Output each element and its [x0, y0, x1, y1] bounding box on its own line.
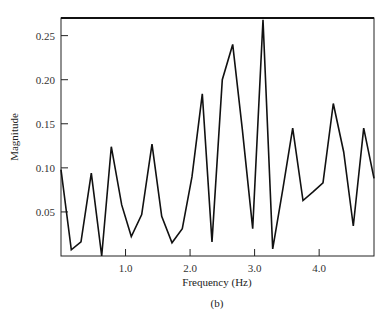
x-axis-label: Frequency (Hz)	[182, 276, 252, 289]
frequency-magnitude-chart: 1.02.03.04.00.050.100.150.200.25 Frequen…	[0, 0, 392, 316]
x-tick-label: 2.0	[183, 262, 197, 274]
figure-caption: (b)	[211, 297, 224, 310]
y-tick-label: 0.20	[36, 74, 56, 86]
x-tick-label: 4.0	[312, 262, 326, 274]
y-tick-label: 0.15	[36, 118, 56, 130]
y-tick-label: 0.05	[36, 206, 56, 218]
plot-axes	[61, 18, 374, 256]
axis-ticks: 1.02.03.04.00.050.100.150.200.25	[36, 30, 327, 274]
y-axis-label: Magnitude	[8, 113, 20, 161]
plot-frame	[61, 18, 374, 256]
y-tick-label: 0.25	[36, 30, 56, 42]
x-tick-label: 3.0	[248, 262, 262, 274]
x-tick-label: 1.0	[119, 262, 133, 274]
magnitude-line	[61, 20, 374, 256]
y-tick-label: 0.10	[36, 162, 56, 174]
